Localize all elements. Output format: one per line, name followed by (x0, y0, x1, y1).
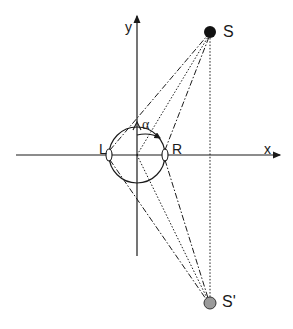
center-to-image-line (137, 155, 207, 298)
right-ear-label: R (172, 142, 182, 156)
source-S-marker (204, 26, 216, 38)
diagram-canvas (0, 0, 293, 329)
left-ear-to-source-line (110, 36, 207, 150)
right-ear-to-source-line (165, 37, 209, 150)
x-axis-label: x (264, 142, 271, 156)
right-ear-to-image-line (165, 160, 208, 298)
right-ear-icon (162, 149, 168, 161)
center-to-source-line (137, 37, 208, 155)
source-label: S (223, 24, 234, 40)
y-axis-label: y (125, 20, 132, 34)
left-ear-label: L (99, 142, 107, 156)
image-source-label: S' (222, 294, 236, 310)
image-source-marker (204, 297, 216, 309)
angle-alpha-label: α (142, 118, 149, 132)
left-ear-to-image-line (110, 160, 206, 299)
